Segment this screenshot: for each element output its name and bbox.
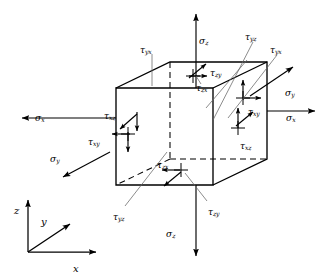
axis-label-x: x bbox=[73, 264, 79, 274]
sigma-y-left-arrow bbox=[63, 152, 110, 177]
label-sigma-z-top: σz bbox=[199, 37, 208, 46]
label-sigma-y-right: σy bbox=[285, 89, 294, 98]
label-tau-xy-right: τxy bbox=[248, 108, 259, 117]
label-tau-zy-bottom: τzy bbox=[208, 208, 219, 217]
label-sigma-z-bottom: σz bbox=[166, 230, 175, 239]
axis-label-z: z bbox=[14, 206, 19, 216]
tau-zy-bottom-arrow bbox=[164, 172, 181, 186]
leader-tau-yz-right bbox=[213, 42, 253, 120]
cube-visible-edges bbox=[116, 62, 267, 185]
label-tau-zx-bottom: τzx bbox=[157, 161, 168, 170]
label-tau-yz-right: τyz bbox=[245, 33, 256, 42]
leader-lines bbox=[125, 42, 277, 206]
label-tau-yx-top: τyx bbox=[140, 46, 151, 55]
label-tau-xy-left: τxy bbox=[88, 138, 99, 147]
label-tau-xz-right: τxz bbox=[240, 142, 251, 151]
label-sigma-y-left: σy bbox=[50, 155, 59, 164]
label-tau-zy-top: τzy bbox=[210, 69, 221, 78]
label-sigma-x-right: σx bbox=[286, 114, 295, 123]
axis-label-y: y bbox=[41, 217, 47, 227]
label-tau-zx-top: τzx bbox=[196, 84, 207, 93]
shear-stress-arrows bbox=[112, 64, 261, 186]
label-tau-xz-left: τxz bbox=[104, 112, 115, 121]
label-sigma-x-left: σx bbox=[35, 114, 44, 123]
cube-hidden-edges bbox=[116, 62, 267, 185]
tau-xy-left-upper-arrow bbox=[120, 114, 137, 129]
axis-y-arrow bbox=[28, 224, 70, 252]
label-tau-yx-right: τyx bbox=[270, 46, 281, 55]
label-tau-yz-bottom: τyz bbox=[113, 213, 124, 222]
axes-triad bbox=[28, 200, 96, 252]
